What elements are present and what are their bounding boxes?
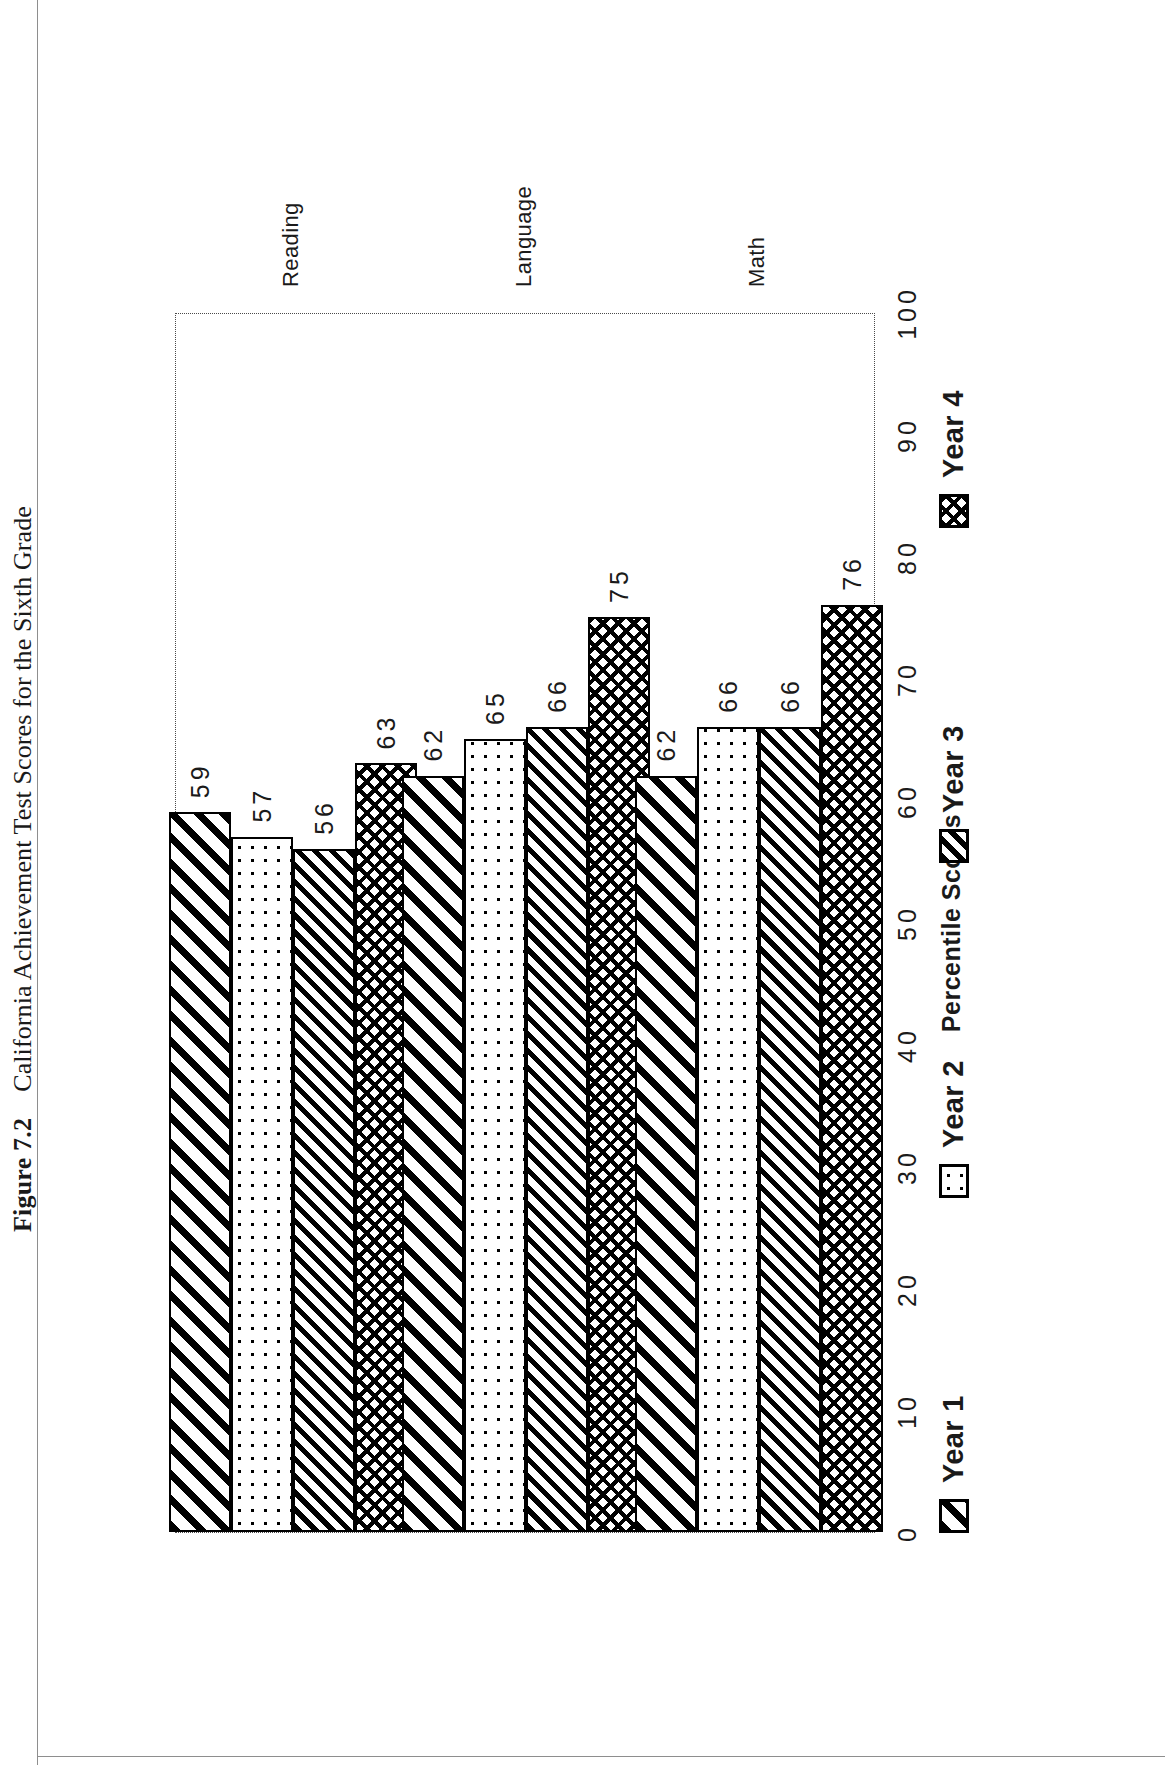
bar-value-label: 66 [775, 677, 804, 713]
bar-chart: 0102030405060708090100 Percentile Scores… [143, 93, 1023, 1673]
bar [464, 739, 526, 1532]
bar [821, 604, 883, 1531]
value-axis-tick: 80 [893, 517, 922, 597]
bar [230, 836, 292, 1531]
value-axis-tick: 20 [893, 1249, 922, 1329]
legend-swatch [938, 829, 968, 863]
category-label: Math [744, 236, 770, 287]
legend-swatch [938, 1499, 968, 1533]
legend-label: Year 4 [937, 390, 970, 478]
value-axis-tick: 70 [893, 639, 922, 719]
bar-value-label: 62 [651, 725, 680, 761]
legend-swatch [938, 1164, 968, 1198]
value-axis-tick: 10 [893, 1371, 922, 1451]
value-axis-tick: 50 [893, 883, 922, 963]
bar-value-label: 62 [418, 725, 447, 761]
figure-caption: Figure 7.2 California Achievement Test S… [8, 0, 52, 1232]
bar [292, 848, 354, 1531]
bar-value-label: 66 [542, 677, 571, 713]
value-axis-tick: 90 [893, 395, 922, 475]
legend-item[interactable]: Year 1 [937, 1395, 970, 1533]
bar [402, 775, 464, 1531]
legend-item[interactable]: Year 2 [937, 1060, 970, 1198]
bars-layer: 595756636265667562666676 [176, 314, 874, 1532]
value-axis-tick: 40 [893, 1005, 922, 1085]
bar [697, 726, 759, 1531]
legend-swatch [938, 494, 968, 528]
value-axis-tick: 0 [893, 1493, 922, 1573]
legend-item[interactable]: Year 3 [937, 725, 970, 863]
legend-label: Year 1 [937, 1395, 970, 1483]
bar-value-label: 63 [371, 713, 400, 749]
category-label: Reading [277, 202, 303, 287]
chart-legend: Year 1Year 2Year 3Year 4 [929, 93, 999, 1533]
bar [526, 726, 588, 1531]
value-axis-tick: 30 [893, 1127, 922, 1207]
legend-label: Year 3 [937, 725, 970, 813]
bar [168, 812, 230, 1532]
bar-value-label: 65 [480, 689, 509, 725]
legend-label: Year 2 [937, 1060, 970, 1148]
figure-caption-text: California Achievement Test Scores for t… [8, 506, 38, 1092]
figure-caption-number: Figure 7.2 [8, 1118, 38, 1232]
category-label: Language [511, 185, 537, 286]
page-margin-rule-bottom [37, 1756, 1165, 1757]
value-axis-tick: 100 [893, 273, 922, 353]
chart-rotated-container: 0102030405060708090100 Percentile Scores… [143, 93, 1023, 1673]
bar-value-label: 56 [309, 799, 338, 835]
bar-value-label: 75 [604, 567, 633, 603]
bar [759, 726, 821, 1531]
bar-value-label: 66 [713, 677, 742, 713]
bar-value-label: 59 [185, 762, 214, 798]
bar-value-label: 76 [837, 555, 866, 591]
bar-value-label: 57 [247, 786, 276, 822]
bar [635, 775, 697, 1531]
value-axis-tick: 60 [893, 761, 922, 841]
legend-item[interactable]: Year 4 [937, 390, 970, 528]
